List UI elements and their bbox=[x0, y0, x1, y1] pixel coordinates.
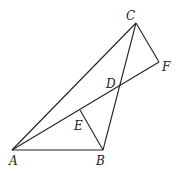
point-label-a: A bbox=[8, 154, 18, 168]
segment-eb bbox=[80, 110, 103, 150]
diagram-canvas: ABCDEF bbox=[0, 0, 178, 171]
point-label-c: C bbox=[126, 9, 135, 23]
segment-cf bbox=[136, 23, 159, 62]
geometry-diagram: ABCDEF bbox=[0, 0, 178, 171]
point-label-d: D bbox=[105, 77, 116, 91]
point-label-f: F bbox=[161, 60, 171, 74]
point-label-e: E bbox=[73, 119, 83, 133]
point-label-b: B bbox=[95, 154, 105, 168]
